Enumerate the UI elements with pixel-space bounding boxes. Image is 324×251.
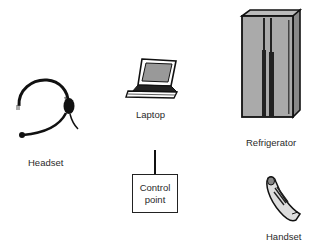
handset-icon [262,172,304,224]
refrigerator-icon [240,8,304,120]
headset-label: Headset [28,157,63,168]
connection-line [154,150,156,174]
handset-label: Handset [266,231,301,242]
control-point-label-line1: Control [140,182,171,194]
headset-icon [10,75,80,145]
laptop-icon [124,57,180,103]
control-point-label-line2: point [145,194,166,206]
refrigerator-label: Refrigerator [246,137,296,148]
control-point-box: Control point [132,174,178,213]
laptop-label: Laptop [136,109,165,120]
